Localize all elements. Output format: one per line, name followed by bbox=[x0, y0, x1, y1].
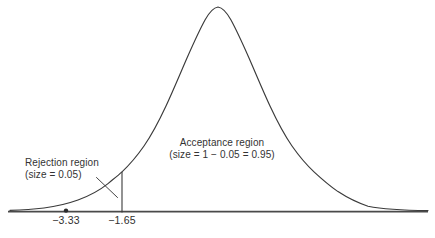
acceptance-region-label: Acceptance region (size = 1 − 0.05 = 0.9… bbox=[169, 137, 275, 162]
rejection-region-label-line2: (size = 0.05) bbox=[25, 169, 99, 181]
rejection-leader-line bbox=[97, 178, 118, 198]
test-statistic-dot bbox=[64, 208, 68, 212]
x-axis-tick-label-minus-3-33: −3.33 bbox=[52, 214, 80, 226]
normal-curve-figure: Rejection region (size = 0.05) Acceptanc… bbox=[0, 0, 435, 238]
x-axis-tick-label-minus-1-65: −1.65 bbox=[108, 214, 136, 226]
acceptance-region-label-line1: Acceptance region bbox=[169, 137, 275, 149]
acceptance-region-label-line2: (size = 1 − 0.05 = 0.95) bbox=[169, 149, 275, 161]
rejection-region-label: Rejection region (size = 0.05) bbox=[25, 157, 99, 182]
rejection-region-label-line1: Rejection region bbox=[25, 157, 99, 169]
figure-canvas bbox=[0, 0, 435, 238]
